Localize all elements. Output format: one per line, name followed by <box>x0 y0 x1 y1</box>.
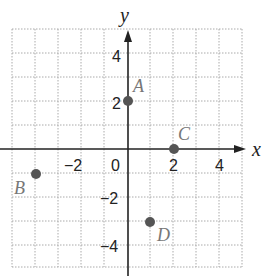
y-axis <box>124 30 132 276</box>
x-tick-4: 4 <box>215 157 224 174</box>
arrow-up-icon <box>124 30 132 42</box>
point-label-D: D <box>156 225 170 245</box>
y-axis-label: y <box>118 4 129 27</box>
point-label-A: A <box>132 76 145 96</box>
x-tick-neg2: −2 <box>64 157 82 174</box>
grid <box>12 29 242 267</box>
y-tick-neg2: −2 <box>100 190 118 207</box>
y-tick-neg4: −4 <box>100 238 118 255</box>
y-tick-4: 4 <box>112 48 121 65</box>
point-label-C: C <box>178 124 191 144</box>
x-axis-label: x <box>251 138 261 160</box>
coordinate-plane: x y −2 0 2 4 4 2 −2 −4 A B C D <box>0 0 272 276</box>
point-label-B: B <box>14 178 25 198</box>
x-axis <box>0 145 246 153</box>
y-tick-2: 2 <box>112 95 121 112</box>
x-tick-0: 0 <box>111 157 120 174</box>
x-tick-2: 2 <box>169 157 178 174</box>
arrow-right-icon <box>234 145 246 153</box>
